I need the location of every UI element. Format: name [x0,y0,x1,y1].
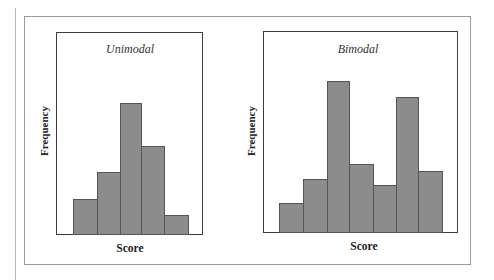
histogram-bar [141,146,165,235]
histogram-bar [418,171,443,233]
bimodal-x-axis-label: Score [350,240,377,252]
page-margin-line [15,8,16,280]
bimodal-title: Bimodal [338,42,379,57]
histogram-bar [120,103,142,235]
histogram-bar [327,81,350,233]
histogram-bar [73,199,98,235]
histogram-bar [97,172,121,235]
unimodal-title: Unimodal [106,42,154,57]
bimodal-y-axis-label: Frequency [245,106,257,156]
unimodal-y-axis-label: Frequency [38,106,50,156]
unimodal-x-axis-label: Score [116,242,143,254]
histogram-bar [164,215,189,235]
histogram-bar [349,164,374,233]
histogram-bar [279,203,304,233]
histogram-bar [303,179,328,233]
histogram-bar [396,97,419,233]
histogram-bar [373,185,397,233]
